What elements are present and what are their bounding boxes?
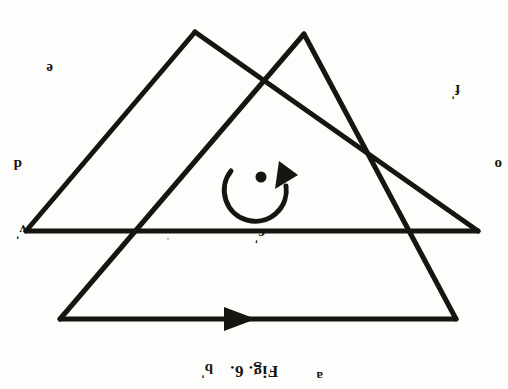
vertex-label-f-text: f — [455, 82, 460, 98]
center-label-c-text: c — [258, 226, 265, 242]
scan-speck — [167, 238, 170, 241]
vertex-label-b-text: b — [205, 361, 213, 377]
center-point — [256, 172, 267, 183]
vertex-label-b: b' — [201, 361, 213, 381]
side-label-v: v' — [16, 222, 27, 242]
side-label-v-text: v — [20, 222, 28, 238]
vertex-label-e: e — [46, 61, 53, 76]
vertex-label-f-prime: ' — [451, 88, 455, 103]
figure-plate: Fig. 6. e f' d o b' a v' c' — [0, 0, 508, 389]
segment-d-a — [195, 32, 478, 231]
center-label-c: c' — [255, 226, 265, 246]
vertex-label-a: a — [317, 370, 324, 383]
segment-f-b — [60, 34, 304, 319]
vertex-label-d: d — [14, 157, 22, 172]
arrowhead-left-icon — [224, 307, 256, 331]
vertex-label-o: o — [495, 157, 503, 172]
vertex-label-f: f' — [451, 82, 460, 102]
vertex-label-b-prime: ' — [201, 367, 205, 382]
segment-e-b — [304, 34, 456, 319]
side-label-v-prime: ' — [16, 228, 20, 243]
center-label-c-prime: ' — [255, 232, 259, 247]
geometry-diagram — [0, 0, 508, 389]
